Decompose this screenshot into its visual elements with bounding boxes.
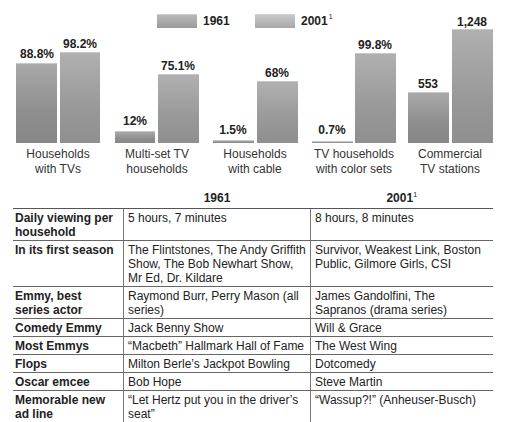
value-label: 12% xyxy=(105,114,165,128)
table-header-row: 1961 20011 xyxy=(13,191,493,209)
cell-2001: Will & Grace xyxy=(311,319,494,337)
value-label: 1.5% xyxy=(203,123,263,137)
cell-1961: “Macbeth” Hallmark Hall of Fame xyxy=(124,337,311,355)
category-label-households-tvs: Householdswith TVs xyxy=(3,147,113,177)
bar-color-1961 xyxy=(312,141,353,143)
bar-multiset-2001 xyxy=(158,74,199,143)
table-header-2001: 20011 xyxy=(311,191,494,209)
row-label: Oscar emcee xyxy=(13,373,124,391)
category-label-color: TV householdswith color sets xyxy=(299,147,409,177)
bar-cable-1961 xyxy=(213,140,254,143)
value-label: 1,248 xyxy=(442,15,502,29)
cell-2001: “Wassup?!” (Anheuser-Busch) xyxy=(311,391,494,422)
bar-color-2001 xyxy=(355,53,396,143)
cell-2001: Survivor, Weakest Link, Boston Public, G… xyxy=(311,241,494,287)
comparison-table: 1961 20011 Daily viewing per household 5… xyxy=(13,191,493,422)
row-label: Memorable new ad line xyxy=(13,391,124,422)
cell-2001: 8 hours, 8 minutes xyxy=(311,209,494,241)
plot-area: 88.8% 98.2% 12% 75.1% 1.5% 68% 0.7% 99.8… xyxy=(0,0,508,143)
bar-chart: 1961 20011 88.8% 98.2% 12% 75.1% 1.5% 68… xyxy=(0,0,508,182)
value-label: 68% xyxy=(247,66,307,80)
table-row: Memorable new ad line “Let Hertz put you… xyxy=(13,391,493,422)
value-label: 99.8% xyxy=(345,38,405,52)
table-row: Emmy, best series actor Raymond Burr, Pe… xyxy=(13,287,493,319)
cell-2001: The West Wing xyxy=(311,337,494,355)
value-label: 0.7% xyxy=(302,123,362,137)
cell-1961: 5 hours, 7 minutes xyxy=(124,209,311,241)
row-label: Comedy Emmy xyxy=(13,319,124,337)
category-label-stations: CommercialTV stations xyxy=(395,147,505,177)
bar-stations-2001 xyxy=(452,29,493,143)
table-row: Flops Milton Berle’s Jackpot Bowling Dot… xyxy=(13,355,493,373)
value-label: 553 xyxy=(398,77,458,91)
cell-2001: Steve Martin xyxy=(311,373,494,391)
row-label: In its first season xyxy=(13,241,124,287)
cell-1961: “Let Hertz put you in the driver’s seat” xyxy=(124,391,311,422)
bar-cable-2001 xyxy=(257,81,298,143)
cell-1961: Raymond Burr, Perry Mason (all series) xyxy=(124,287,311,319)
bar-stations-1961 xyxy=(408,92,449,143)
category-label-multiset: Multi-set TVhouseholds xyxy=(102,147,212,177)
value-label: 75.1% xyxy=(148,59,208,73)
cell-1961: Bob Hope xyxy=(124,373,311,391)
cell-1961: Jack Benny Show xyxy=(124,319,311,337)
bar-households-tvs-1961 xyxy=(16,63,57,143)
row-label: Daily viewing per household xyxy=(13,209,124,241)
category-label-cable: Householdswith cable xyxy=(200,147,310,177)
row-label: Flops xyxy=(13,355,124,373)
bar-households-tvs-2001 xyxy=(60,52,100,143)
cell-2001: James Gandolfini, The Sapranos (drama se… xyxy=(311,287,494,319)
cell-1961: The Flintstones, The Andy Griffith Show,… xyxy=(124,241,311,287)
row-label: Emmy, best series actor xyxy=(13,287,124,319)
table-row: In its first season The Flintstones, The… xyxy=(13,241,493,287)
value-label: 98.2% xyxy=(50,37,110,51)
table-header-1961: 1961 xyxy=(124,191,311,209)
table-row: Most Emmys “Macbeth” Hallmark Hall of Fa… xyxy=(13,337,493,355)
row-label: Most Emmys xyxy=(13,337,124,355)
bar-multiset-1961 xyxy=(115,131,155,143)
table-row: Daily viewing per household 5 hours, 7 m… xyxy=(13,209,493,241)
cell-1961: Milton Berle’s Jackpot Bowling xyxy=(124,355,311,373)
table-header-empty xyxy=(13,191,124,209)
cell-2001: Dotcomedy xyxy=(311,355,494,373)
table-row: Oscar emcee Bob Hope Steve Martin xyxy=(13,373,493,391)
table-row: Comedy Emmy Jack Benny Show Will & Grace xyxy=(13,319,493,337)
